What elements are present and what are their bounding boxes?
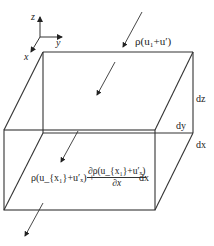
fraction-numerator: ∂ρ(u_{x₁}+u′ₓ) [87,166,146,178]
outflow-term: ρ(u_{x₁}+u′ₓ) + [31,173,95,183]
outflow-fraction: ∂ρ(u_{x₁}+u′ₓ) ∂x [87,166,146,189]
fraction-denominator: ∂x [112,178,121,189]
inflow-label: ρ(u₁+u′) [135,36,171,47]
outflow-dx: dx [139,173,149,183]
z-axis-label: z [31,12,35,22]
dx-label: dx [196,140,206,150]
y-axis-label: y [56,38,60,48]
dz-label: dz [196,94,205,104]
x-axis-label: x [24,52,28,62]
dy-label: dy [176,121,186,131]
